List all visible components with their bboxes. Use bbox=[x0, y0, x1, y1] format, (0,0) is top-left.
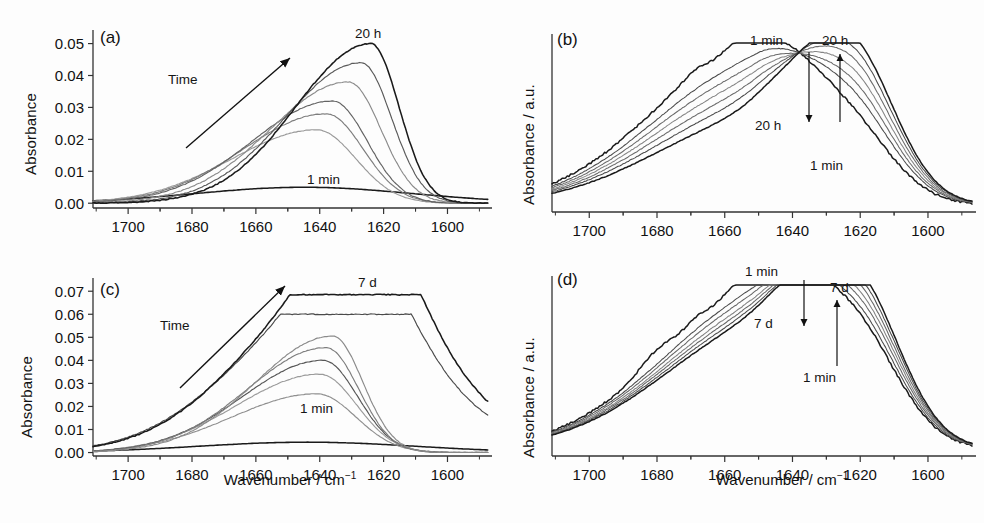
svg-text:1620: 1620 bbox=[844, 222, 877, 239]
svg-text:1700: 1700 bbox=[573, 222, 606, 239]
panel-c-ylabel: Absorbance bbox=[18, 356, 35, 438]
svg-text:1700: 1700 bbox=[111, 218, 144, 235]
panel-b-ylabel: Absorbance / a.u. bbox=[520, 84, 537, 205]
panel-c-xlabel-sup: −1 bbox=[345, 470, 356, 481]
svg-text:0.00: 0.00 bbox=[55, 444, 84, 461]
panel-c-last-label: 7 d bbox=[358, 275, 377, 290]
svg-text:1660: 1660 bbox=[708, 222, 741, 239]
panel-b-left-top-label: 1 min bbox=[750, 33, 783, 48]
panel-b-left-bottom-label: 20 h bbox=[755, 118, 781, 133]
svg-text:0.03: 0.03 bbox=[55, 99, 84, 116]
svg-text:0.06: 0.06 bbox=[55, 306, 84, 323]
panel-d-xlabel: Wavenumber / cm−1 bbox=[642, 470, 922, 488]
svg-text:1700: 1700 bbox=[111, 466, 144, 483]
panel-a-time-label: Time bbox=[168, 72, 198, 87]
panel-d-right-top-label: 7 d bbox=[830, 280, 849, 295]
panel-d: 170016801660164016201600 (d) Absorbance … bbox=[492, 258, 984, 523]
panel-a-plot: 0.000.010.020.030.040.051700168016601640… bbox=[0, 0, 492, 262]
svg-text:0.04: 0.04 bbox=[55, 67, 84, 84]
svg-text:0.02: 0.02 bbox=[55, 398, 84, 415]
panel-b-tag: (b) bbox=[557, 30, 578, 50]
svg-text:0.03: 0.03 bbox=[55, 375, 84, 392]
panel-c-first-label: 1 min bbox=[300, 401, 333, 416]
svg-text:0.01: 0.01 bbox=[55, 163, 84, 180]
figure-root: 0.000.010.020.030.040.051700168016601640… bbox=[0, 0, 984, 523]
panel-d-tag: (d) bbox=[557, 270, 578, 290]
panel-a-tag: (a) bbox=[100, 28, 121, 48]
svg-text:0.07: 0.07 bbox=[55, 283, 84, 300]
panel-c-tag: (c) bbox=[100, 280, 120, 300]
svg-text:0.04: 0.04 bbox=[55, 352, 84, 369]
panel-d-left-top-label: 1 min bbox=[745, 264, 778, 279]
svg-text:1640: 1640 bbox=[776, 222, 809, 239]
panel-c: 0.000.010.020.030.040.050.060.0717001680… bbox=[0, 258, 492, 523]
svg-text:0.01: 0.01 bbox=[55, 421, 84, 438]
panel-a-last-label: 20 h bbox=[355, 26, 381, 41]
svg-text:1700: 1700 bbox=[573, 466, 606, 483]
panel-a-ylabel: Absorbance bbox=[22, 93, 39, 175]
svg-text:1600: 1600 bbox=[911, 222, 944, 239]
panel-a-first-label: 1 min bbox=[307, 172, 340, 187]
svg-text:1640: 1640 bbox=[303, 218, 336, 235]
panel-c-xlabel: Wavenumber / cm−1 bbox=[150, 470, 430, 488]
svg-text:1600: 1600 bbox=[431, 466, 464, 483]
svg-text:0.05: 0.05 bbox=[55, 35, 84, 52]
panel-b: 170016801660164016201600 (b) Absorbance … bbox=[492, 0, 984, 262]
panel-d-ylabel: Absorbance / a.u. bbox=[520, 337, 537, 458]
svg-text:0.05: 0.05 bbox=[55, 329, 84, 346]
svg-text:1680: 1680 bbox=[640, 222, 673, 239]
svg-text:1680: 1680 bbox=[175, 218, 208, 235]
panel-d-xlabel-sup: −1 bbox=[837, 470, 848, 481]
panel-a: 0.000.010.020.030.040.051700168016601640… bbox=[0, 0, 492, 262]
panel-d-right-bottom-label: 1 min bbox=[803, 370, 836, 385]
panel-b-right-top-label: 20 h bbox=[822, 33, 848, 48]
svg-text:1600: 1600 bbox=[431, 218, 464, 235]
svg-text:1660: 1660 bbox=[239, 218, 272, 235]
panel-b-right-bottom-label: 1 min bbox=[810, 158, 843, 173]
panel-c-xlabel-main: Wavenumber / cm bbox=[224, 471, 345, 488]
svg-text:0.02: 0.02 bbox=[55, 131, 84, 148]
panel-d-xlabel-main: Wavenumber / cm bbox=[716, 471, 837, 488]
panel-d-left-bottom-label: 7 d bbox=[754, 316, 773, 331]
panel-c-time-label: Time bbox=[160, 318, 190, 333]
svg-text:0.00: 0.00 bbox=[55, 195, 84, 212]
svg-text:1620: 1620 bbox=[367, 218, 400, 235]
